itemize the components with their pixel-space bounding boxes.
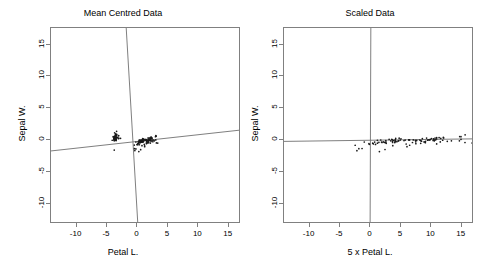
data-point [155, 135, 157, 137]
data-point [398, 140, 400, 142]
scatter-canvas-mean-centred [51, 28, 240, 223]
y-tick-mark [279, 44, 283, 45]
x-tick-mark [228, 223, 229, 227]
data-point [136, 144, 138, 146]
data-point [415, 141, 417, 143]
data-point [422, 138, 424, 140]
data-point [147, 139, 149, 141]
x-tick-label: -5 [92, 229, 120, 238]
x-tick-mark [400, 223, 401, 227]
plot-area-scaled [283, 27, 473, 223]
x-tick-label: 10 [183, 229, 211, 238]
x-tick-label: -10 [62, 229, 90, 238]
data-point [377, 140, 379, 142]
data-point [152, 141, 154, 143]
data-point [405, 143, 407, 145]
data-point [409, 144, 411, 146]
panel-title-left: Mean Centred Data [0, 7, 246, 19]
data-point [150, 137, 152, 139]
data-point [142, 139, 144, 141]
scatter-canvas-scaled [284, 28, 473, 223]
data-point [380, 139, 382, 141]
data-point [155, 139, 157, 141]
y-tick-mark [46, 44, 50, 45]
x-tick-label: 15 [447, 229, 475, 238]
x-tick-mark [136, 223, 137, 227]
data-point [120, 137, 122, 139]
pc1-axis-line [284, 139, 473, 142]
y-tick-mark [279, 139, 283, 140]
x-tick-mark [167, 223, 168, 227]
data-point [464, 142, 466, 144]
x-tick-mark [197, 223, 198, 227]
x-tick-label: 0 [122, 229, 150, 238]
panel-title-right: Scaled Data [247, 7, 493, 19]
y-tick-label: 0 [37, 128, 46, 150]
data-point [117, 136, 119, 138]
data-point [111, 139, 113, 141]
data-point [399, 139, 401, 141]
y-tick-mark [279, 203, 283, 204]
data-point [394, 139, 396, 141]
data-point [396, 141, 398, 143]
data-point [429, 139, 431, 141]
data-point [381, 141, 383, 143]
data-point [116, 130, 118, 132]
y-tick-label: 5 [270, 96, 279, 118]
data-point [118, 135, 120, 137]
y-axis-label-right: Sepal W. [250, 94, 261, 154]
data-point [114, 138, 116, 140]
data-point [403, 140, 405, 142]
data-point [114, 132, 116, 134]
data-point [148, 139, 150, 141]
y-tick-mark [46, 107, 50, 108]
x-tick-mark [106, 223, 107, 227]
data-point [373, 143, 375, 145]
data-point [446, 140, 448, 142]
panel-scaled: Scaled Data -10-5051015 5 x Petal L. -10… [247, 0, 493, 271]
data-point [385, 141, 387, 143]
x-tick-label: 10 [416, 229, 444, 238]
data-point [149, 142, 151, 144]
data-point [393, 140, 395, 142]
data-point [415, 143, 417, 145]
data-point [427, 139, 429, 141]
y-tick-mark [46, 203, 50, 204]
data-point [156, 142, 158, 144]
data-point [113, 149, 115, 151]
y-tick-label: -5 [270, 159, 279, 181]
data-point [152, 139, 154, 141]
pc2-axis-line [370, 28, 371, 223]
y-tick-label: 10 [37, 64, 46, 86]
data-point [426, 137, 428, 139]
data-point [392, 145, 394, 147]
data-point [406, 146, 408, 148]
y-tick-label: 0 [270, 128, 279, 150]
x-axis-label-left: Petal L. [0, 247, 246, 258]
data-point [412, 142, 414, 144]
x-tick-mark [309, 223, 310, 227]
data-point [144, 146, 146, 148]
pc2-axis-line [126, 28, 138, 223]
data-point [388, 139, 390, 141]
data-point [140, 140, 142, 142]
y-tick-mark [46, 75, 50, 76]
data-point [354, 144, 356, 146]
x-tick-label: 5 [386, 229, 414, 238]
x-tick-mark [461, 223, 462, 227]
x-axis-label-right: 5 x Petal L. [247, 247, 493, 258]
data-point [420, 143, 422, 145]
data-point [384, 149, 386, 151]
y-tick-label: 10 [270, 64, 279, 86]
figure-canvas: Mean Centred Data -10-5051015 Petal L. -… [0, 0, 493, 271]
data-point [460, 138, 462, 140]
data-point [361, 148, 363, 150]
data-point [440, 138, 442, 140]
y-tick-mark [46, 171, 50, 172]
data-point [395, 138, 397, 140]
y-tick-label: 5 [37, 96, 46, 118]
data-point [143, 143, 145, 145]
data-point [141, 145, 143, 147]
y-tick-label: -5 [37, 159, 46, 181]
data-point [375, 144, 377, 146]
